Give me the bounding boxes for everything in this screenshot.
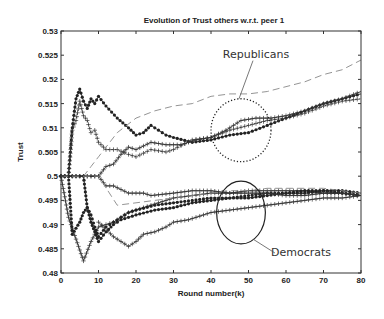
annotation-layer: RepublicansDemocrats	[211, 48, 331, 259]
x-axis-label: Round number(k)	[178, 289, 245, 298]
y-tick-label: 0.49	[42, 221, 58, 230]
x-tick-label: 10	[94, 276, 103, 285]
y-tick-label: 0.515	[38, 100, 59, 109]
y-tick-label: 0.495	[38, 196, 59, 205]
y-tick-label: 0.48	[42, 269, 58, 278]
series-layer	[59, 60, 361, 263]
x-tick-label: 30	[169, 276, 178, 285]
trust-evolution-chart: Evolution of Trust others w.r.t. peer 1 …	[0, 0, 384, 319]
x-tick-label: 50	[244, 276, 253, 285]
y-tick-label: 0.51	[42, 124, 58, 133]
chart-title: Evolution of Trust others w.r.t. peer 1	[144, 16, 285, 25]
x-tick-label: 0	[59, 276, 64, 285]
x-tick-label: 60	[282, 276, 291, 285]
plot-frame	[61, 31, 361, 273]
y-tick-label: 0.505	[38, 148, 59, 157]
x-tick-label: 40	[207, 276, 216, 285]
series-line	[61, 92, 361, 177]
republicans-label: Republicans	[223, 48, 290, 61]
y-tick-label: 0.485	[38, 245, 59, 254]
democrats-label: Democrats	[271, 246, 331, 259]
x-tick-label: 20	[132, 276, 141, 285]
x-tick-label: 80	[357, 276, 366, 285]
series-line	[99, 196, 362, 247]
y-tick-label: 0.52	[42, 75, 58, 84]
y-tick-label: 0.53	[42, 27, 58, 36]
y-axis-label: Trust	[16, 142, 25, 162]
y-tick-label: 0.525	[38, 51, 59, 60]
y-tick-label: 0.5	[47, 172, 59, 181]
republicans-ellipse	[211, 99, 271, 162]
series-line	[61, 60, 361, 176]
x-tick-label: 70	[319, 276, 328, 285]
